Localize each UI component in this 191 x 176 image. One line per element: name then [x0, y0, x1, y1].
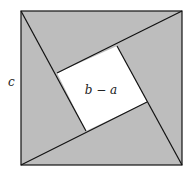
pythagorean-diagram: c b − a [0, 0, 191, 176]
side-label-c: c [8, 75, 15, 89]
inner-square-label: b − a [85, 83, 118, 97]
